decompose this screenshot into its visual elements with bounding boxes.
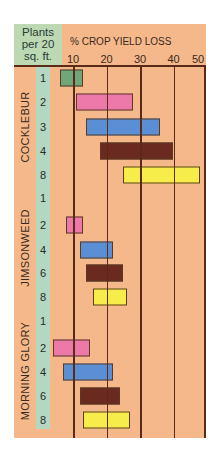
range-bar xyxy=(76,94,133,111)
range-bar xyxy=(60,70,83,87)
row-header-line: per 20 xyxy=(14,38,62,50)
density-label: 1 xyxy=(36,72,50,84)
density-label: 8 xyxy=(36,291,50,303)
gridline xyxy=(174,65,176,438)
density-label: 8 xyxy=(36,169,50,181)
gridline xyxy=(73,65,75,438)
density-label: 2 xyxy=(36,219,50,231)
density-label: 1 xyxy=(36,192,50,204)
axis-title: % CROP YIELD LOSS xyxy=(70,36,171,47)
gridline xyxy=(140,65,142,438)
density-label: 3 xyxy=(36,121,50,133)
gridline xyxy=(107,65,109,438)
density-label: 6 xyxy=(36,267,50,279)
header-divider xyxy=(14,65,206,67)
range-bar xyxy=(123,167,200,184)
density-label: 6 xyxy=(36,390,50,402)
x-tick-label: 20 xyxy=(100,53,112,65)
density-label: 2 xyxy=(36,342,50,354)
range-bar xyxy=(86,119,160,136)
species-label: JIMSONWEED xyxy=(19,209,31,287)
row-header-line: Plants xyxy=(14,26,62,38)
x-tick-label: 50 xyxy=(192,53,204,65)
density-label: 4 xyxy=(36,366,50,378)
density-label: 8 xyxy=(36,414,50,426)
density-label: 2 xyxy=(36,96,50,108)
species-label: COCKLEBUR xyxy=(19,91,31,162)
range-bar xyxy=(53,340,90,357)
gridline xyxy=(204,65,206,438)
range-bar xyxy=(100,143,174,160)
density-label: 4 xyxy=(36,244,50,256)
range-bar xyxy=(66,217,83,234)
row-header: Plants per 20 sq. ft. xyxy=(14,24,62,65)
x-tick-label: 10 xyxy=(67,53,79,65)
range-bar xyxy=(86,265,123,282)
range-bar xyxy=(80,242,114,259)
range-bar xyxy=(93,289,127,306)
row-header-line: sq. ft. xyxy=(14,50,62,62)
x-tick-label: 30 xyxy=(134,53,146,65)
density-label: 4 xyxy=(36,145,50,157)
x-tick-label: 40 xyxy=(167,53,179,65)
density-label: 1 xyxy=(36,315,50,327)
crop-yield-loss-chart: Plants per 20 sq. ft. % CROP YIELD LOSS … xyxy=(14,24,206,438)
species-label: MORNING GLORY xyxy=(19,321,31,419)
range-bar xyxy=(80,388,120,405)
